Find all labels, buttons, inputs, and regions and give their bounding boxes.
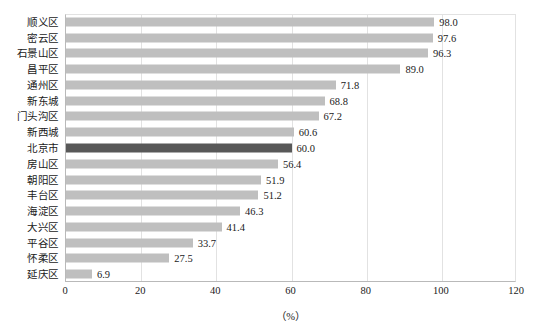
category-label-5: 通州区 xyxy=(0,79,58,90)
value-label-6: 68.8 xyxy=(330,95,348,106)
x-tick-80: 80 xyxy=(360,284,371,298)
bar-row: 顺义区98.0 xyxy=(0,14,537,30)
value-label-8: 60.6 xyxy=(299,127,317,138)
x-axis-unit-label: （%） xyxy=(0,308,537,323)
bar-row: 海淀区46.3 xyxy=(0,203,537,219)
x-tick-0: 0 xyxy=(62,284,67,298)
bar-row: 通州区71.8 xyxy=(0,77,537,93)
bar-row: 丰台区51.2 xyxy=(0,187,537,203)
bar-row: 北京市60.0 xyxy=(0,140,537,156)
value-label-7: 67.2 xyxy=(324,111,342,122)
category-label-11: 朝阳区 xyxy=(0,174,58,185)
bar-row: 门头沟区67.2 xyxy=(0,109,537,125)
bar-row: 延庆区6.9 xyxy=(0,266,537,282)
bar-3 xyxy=(66,49,428,58)
bar-14 xyxy=(66,222,222,231)
x-tick-100: 100 xyxy=(433,284,449,298)
category-label-3: 石景山区 xyxy=(0,48,58,59)
category-label-8: 新西城 xyxy=(0,127,58,138)
category-label-7: 门头沟区 xyxy=(0,111,58,122)
bar-row: 朝阳区51.9 xyxy=(0,172,537,188)
category-label-14: 大兴区 xyxy=(0,221,58,232)
bar-8 xyxy=(66,128,294,137)
value-label-13: 46.3 xyxy=(245,206,263,217)
category-label-13: 海淀区 xyxy=(0,206,58,217)
bar-rows: 顺义区98.0密云区97.6石景山区96.3昌平区89.0通州区71.8新东城6… xyxy=(0,14,537,282)
value-label-9: 60.0 xyxy=(297,142,315,153)
x-tick-40: 40 xyxy=(210,284,221,298)
bar-9 xyxy=(66,143,292,152)
bar-6 xyxy=(66,96,325,105)
bar-13 xyxy=(66,207,240,216)
value-label-1: 98.0 xyxy=(439,16,457,27)
bar-15 xyxy=(66,238,193,247)
x-axis-tick-labels: 020406080100120 xyxy=(0,284,537,302)
value-label-2: 97.6 xyxy=(438,32,456,43)
bar-2 xyxy=(66,33,433,42)
category-label-6: 新东城 xyxy=(0,95,58,106)
category-label-16: 怀柔区 xyxy=(0,253,58,264)
value-label-12: 51.2 xyxy=(263,190,281,201)
bar-row: 平谷区33.7 xyxy=(0,235,537,251)
category-label-15: 平谷区 xyxy=(0,237,58,248)
bar-row: 房山区56.4 xyxy=(0,156,537,172)
category-label-12: 丰台区 xyxy=(0,190,58,201)
bar-16 xyxy=(66,254,169,263)
bar-row: 怀柔区27.5 xyxy=(0,250,537,266)
value-label-15: 33.7 xyxy=(198,237,216,248)
bar-7 xyxy=(66,112,319,121)
category-label-1: 顺义区 xyxy=(0,16,58,27)
category-label-9: 北京市 xyxy=(0,142,58,153)
value-label-5: 71.8 xyxy=(341,79,359,90)
category-label-10: 房山区 xyxy=(0,158,58,169)
bar-1 xyxy=(66,17,434,26)
x-tick-20: 20 xyxy=(135,284,146,298)
bar-row: 密云区97.6 xyxy=(0,30,537,46)
value-label-16: 27.5 xyxy=(174,253,192,264)
category-label-17: 延庆区 xyxy=(0,269,58,280)
bar-row: 新东城68.8 xyxy=(0,93,537,109)
value-label-3: 96.3 xyxy=(433,48,451,59)
value-label-14: 41.4 xyxy=(227,221,245,232)
value-label-11: 51.9 xyxy=(266,174,284,185)
category-label-4: 昌平区 xyxy=(0,64,58,75)
x-tick-60: 60 xyxy=(285,284,296,298)
bar-4 xyxy=(66,65,400,74)
value-label-4: 89.0 xyxy=(405,64,423,75)
value-label-17: 6.9 xyxy=(97,269,110,280)
bar-row: 昌平区89.0 xyxy=(0,61,537,77)
bar-row: 石景山区96.3 xyxy=(0,46,537,62)
x-axis-unit-text: （%） xyxy=(276,311,305,322)
bar-17 xyxy=(66,270,92,279)
bar-row: 大兴区41.4 xyxy=(0,219,537,235)
category-label-2: 密云区 xyxy=(0,32,58,43)
bar-12 xyxy=(66,191,258,200)
bar-5 xyxy=(66,80,336,89)
bar-11 xyxy=(66,175,261,184)
bar-row: 新西城60.6 xyxy=(0,124,537,140)
x-tick-120: 120 xyxy=(508,284,524,298)
bar-10 xyxy=(66,159,278,168)
bar-chart: 顺义区98.0密云区97.6石景山区96.3昌平区89.0通州区71.8新东城6… xyxy=(0,0,537,335)
value-label-10: 56.4 xyxy=(283,158,301,169)
